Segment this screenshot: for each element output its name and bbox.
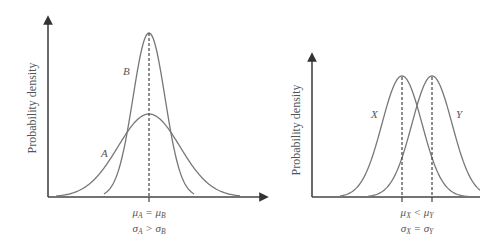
curve-a bbox=[56, 114, 240, 196]
curve-y bbox=[368, 76, 480, 196]
curve-y-label: Y bbox=[456, 108, 464, 120]
curve-a-label: A bbox=[100, 147, 108, 159]
right-chart: X Y Probability density μX < μY σX = σY bbox=[289, 57, 480, 236]
left-mean-equation: μA = μB bbox=[131, 206, 166, 220]
left-y-axis-label: Probability density bbox=[25, 63, 39, 154]
curve-x-label: X bbox=[370, 108, 379, 120]
curve-x bbox=[340, 76, 470, 197]
right-y-axis-label: Probability density bbox=[289, 85, 303, 176]
figure: B A Probability density μA = μB σA > σB … bbox=[0, 0, 480, 249]
right-mean-equation: μX < μY bbox=[400, 206, 435, 220]
left-sd-equation: σA > σB bbox=[133, 222, 166, 236]
curve-b-label: B bbox=[123, 65, 130, 77]
right-sd-equation: σX = σY bbox=[401, 222, 434, 236]
left-chart: B A Probability density μA = μB σA > σB bbox=[25, 20, 264, 236]
